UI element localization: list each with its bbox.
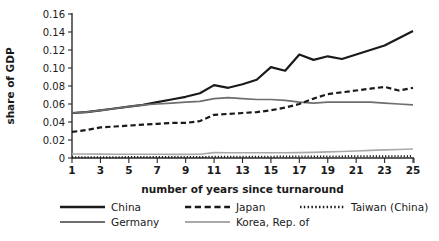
legend-label-germany: Germany — [111, 216, 159, 228]
x-tick-label: 9 — [182, 164, 189, 176]
x-tick-label: 25 — [406, 164, 421, 176]
x-tick-label: 1 — [68, 164, 75, 176]
y-tick-label: 0.12 — [43, 45, 65, 56]
series-line-korea-rep-of — [72, 149, 413, 154]
line-chart: 00.020.040.060.080.100.120.140.16 135791… — [0, 0, 439, 241]
y-tick-label: 0.02 — [43, 135, 65, 146]
legend-label-china: China — [111, 201, 141, 213]
x-tick-label: 3 — [97, 164, 104, 176]
x-tick-label: 5 — [125, 164, 132, 176]
x-axis-title: number of years since turnaround — [141, 183, 343, 195]
x-tick-label: 13 — [235, 164, 250, 176]
series-line-taiwan-china — [72, 156, 413, 157]
legend-label-taiwan-china: Taiwan (China) — [350, 201, 428, 213]
x-tick-label: 19 — [320, 164, 335, 176]
series-line-germany — [72, 98, 413, 113]
y-tick-label: 0.16 — [43, 9, 65, 20]
y-axis: 00.020.040.060.080.100.120.140.16 — [43, 9, 72, 164]
x-axis: 135791113151719212325 — [68, 158, 420, 176]
y-tick-label: 0.10 — [43, 63, 65, 74]
chart-figure: 00.020.040.060.080.100.120.140.16 135791… — [0, 0, 439, 241]
x-tick-label: 7 — [154, 164, 161, 176]
y-tick-label: 0.04 — [43, 117, 65, 128]
y-tick-label: 0.06 — [43, 99, 65, 110]
x-tick-label: 11 — [207, 164, 222, 176]
x-tick-label: 21 — [349, 164, 364, 176]
series-lines — [72, 31, 413, 157]
y-tick-label: 0.08 — [43, 81, 65, 92]
y-tick-label: 0.14 — [43, 27, 65, 38]
y-axis-title: share of GDP — [4, 47, 16, 125]
x-tick-label: 15 — [264, 164, 279, 176]
x-tick-label: 17 — [292, 164, 307, 176]
series-line-japan — [72, 87, 413, 132]
chart-legend: ChinaJapanTaiwan (China)GermanyKorea, Re… — [60, 201, 428, 228]
legend-label-japan: Japan — [235, 201, 265, 213]
y-tick-label: 0 — [59, 153, 65, 164]
legend-label-korea-rep-of: Korea, Rep. of — [236, 216, 309, 228]
x-tick-label: 23 — [377, 164, 392, 176]
series-line-china — [72, 31, 413, 113]
